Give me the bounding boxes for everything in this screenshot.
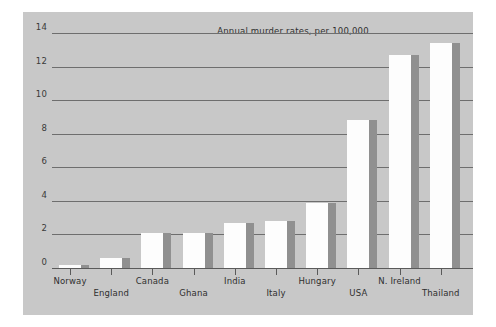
bar-side-n-ireland: [411, 55, 419, 268]
x-tick-thailand: [441, 269, 442, 275]
y-tick-label-10: 10: [23, 89, 47, 99]
x-tick-canada: [152, 269, 153, 275]
x-tick-hungary: [317, 269, 318, 275]
bar-england: [100, 258, 122, 268]
x-label-india: India: [195, 276, 275, 286]
bar-side-thailand: [452, 43, 460, 268]
bar-canada: [141, 233, 163, 268]
bar-side-usa: [369, 120, 377, 268]
y-tick-label-0: 0: [23, 257, 47, 267]
bar-side-india: [246, 223, 254, 268]
y-tick-label-14: 14: [23, 22, 47, 32]
x-tick-norway: [70, 269, 71, 275]
bar-thailand: [430, 43, 452, 268]
gridline-14: [52, 33, 473, 34]
x-label-england: England: [71, 288, 151, 298]
y-tick-label-4: 4: [23, 190, 47, 200]
x-tick-india: [235, 269, 236, 275]
x-label-thailand: Thailand: [401, 288, 481, 298]
bar-india: [224, 223, 246, 268]
plot-area: Annual murder rates, per 100,000 0246810…: [23, 12, 473, 315]
x-label-hungary: Hungary: [277, 276, 357, 286]
y-tick-label-8: 8: [23, 123, 47, 133]
x-tick-ghana: [194, 269, 195, 275]
bar-n-ireland: [389, 55, 411, 268]
bar-hungary: [306, 203, 328, 268]
bar-usa: [347, 120, 369, 268]
bar-side-italy: [287, 221, 295, 268]
y-tick-label-12: 12: [23, 56, 47, 66]
x-label-norway: Norway: [30, 276, 110, 286]
bar-italy: [265, 221, 287, 268]
chart-figure: Annual murder rates, per 100,000 0246810…: [0, 0, 496, 327]
x-label-ghana: Ghana: [154, 288, 234, 298]
x-label-n-ireland: N. Ireland: [360, 276, 440, 286]
x-tick-england: [111, 269, 112, 275]
x-tick-n-ireland: [400, 269, 401, 275]
y-tick-label-6: 6: [23, 156, 47, 166]
bar-ghana: [183, 233, 205, 268]
x-label-canada: Canada: [112, 276, 192, 286]
x-label-italy: Italy: [236, 288, 316, 298]
bar-side-england: [122, 258, 130, 268]
x-axis-line: [52, 268, 473, 269]
x-tick-italy: [276, 269, 277, 275]
chart-title: Annual murder rates, per 100,000: [143, 26, 443, 36]
bar-side-hungary: [328, 203, 336, 268]
y-tick-label-2: 2: [23, 223, 47, 233]
bar-side-canada: [163, 233, 171, 268]
bar-side-ghana: [205, 233, 213, 268]
x-label-usa: USA: [318, 288, 398, 298]
x-tick-usa: [358, 269, 359, 275]
